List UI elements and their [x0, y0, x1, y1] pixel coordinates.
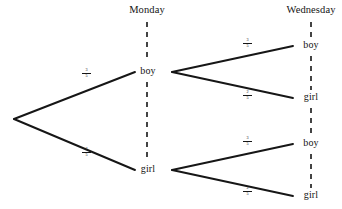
tree-edges-svg	[0, 0, 342, 209]
fraction-denominator: 5	[243, 192, 252, 196]
node-wednesday-boy-after-boy: boy	[299, 40, 323, 50]
edge-root-to-monday-girl	[14, 119, 135, 170]
node-monday-girl: girl	[136, 164, 160, 174]
edge-monday-girl-to-wed-boy	[172, 144, 293, 170]
column-header-monday: Monday	[123, 5, 171, 16]
fraction-denominator: 5	[243, 44, 252, 48]
branch-label-root-to-boy: 3 5	[82, 68, 91, 78]
column-header-wednesday: Wednesday	[281, 5, 341, 16]
node-monday-boy: boy	[136, 66, 160, 76]
edge-monday-girl-to-wed-girl	[172, 170, 293, 196]
edge-monday-boy-to-wed-boy	[172, 46, 293, 72]
probability-tree-diagram: Monday Wednesday boy girl boy girl boy g…	[0, 0, 342, 209]
node-wednesday-boy-after-girl: boy	[299, 138, 323, 148]
branch-label-girl-to-boy: 3 5	[243, 136, 252, 146]
figure-caption	[0, 201, 342, 209]
edge-monday-boy-to-wed-girl	[172, 72, 293, 98]
branch-label-boy-to-boy: 3 5	[243, 38, 252, 48]
fraction-denominator: 5	[82, 153, 91, 157]
edge-root-to-monday-boy	[14, 72, 135, 119]
branch-label-root-to-girl: 2 5	[82, 147, 91, 157]
node-wednesday-girl-after-girl: girl	[299, 190, 323, 200]
fraction-denominator: 5	[243, 142, 252, 146]
fraction-denominator: 5	[82, 74, 91, 78]
branch-label-boy-to-girl: 2 5	[243, 90, 252, 100]
node-wednesday-girl-after-boy: girl	[299, 92, 323, 102]
fraction-denominator: 5	[243, 96, 252, 100]
branch-label-girl-to-girl: 2 5	[243, 186, 252, 196]
